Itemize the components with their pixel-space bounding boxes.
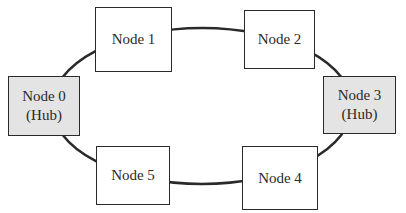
node-3-sublabel: (Hub) [342, 105, 378, 124]
node-2-label: Node 2 [258, 30, 302, 49]
node-0-sublabel: (Hub) [26, 106, 62, 125]
node-4: Node 4 [242, 146, 318, 210]
node-4-label: Node 4 [258, 169, 302, 188]
node-1: Node 1 [95, 7, 172, 72]
node-1-label: Node 1 [112, 30, 156, 49]
node-3-label: Node 3 [338, 86, 382, 105]
node-0-hub: Node 0 (Hub) [8, 76, 80, 136]
node-5-label: Node 5 [111, 166, 155, 185]
node-2: Node 2 [244, 10, 315, 69]
node-5: Node 5 [96, 146, 170, 205]
node-3-hub: Node 3 (Hub) [323, 76, 396, 134]
node-0-label: Node 0 [22, 87, 66, 106]
